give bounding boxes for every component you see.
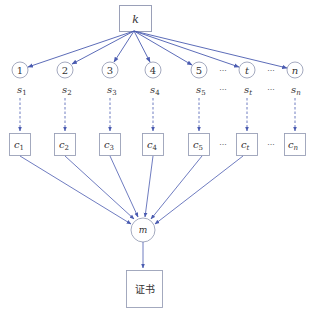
secret-label-2: s2 — [62, 84, 72, 97]
cipher-node-4: c4 — [143, 134, 164, 156]
edge-k-2 — [72, 31, 134, 64]
combiner-node-m: m — [131, 218, 155, 242]
combine-edges — [20, 156, 243, 224]
index-node-3: 3 — [102, 62, 118, 78]
index-node-4: 4 — [145, 62, 161, 78]
cipher-node-2: c2 — [55, 134, 76, 156]
ellipsis: ··· — [267, 140, 275, 149]
certificate-node: 证书 — [127, 271, 163, 308]
edge-c4-m — [145, 156, 153, 217]
index-label: 5 — [196, 65, 202, 76]
cipher-node-3: c3 — [100, 134, 121, 156]
ellipsis: ··· — [219, 66, 227, 75]
secret-label-3: s3 — [107, 84, 117, 97]
encrypt-edges — [20, 98, 295, 131]
cipher-node-5: c5 — [189, 134, 210, 156]
combiner-label: m — [139, 225, 148, 235]
index-label: 3 — [107, 65, 113, 76]
secret-label-5: s5 — [196, 84, 206, 97]
diagram-canvas: k 1 2 3 4 5 — [0, 0, 309, 314]
edge-c5-m — [151, 156, 202, 219]
index-node-t: t — [239, 62, 255, 78]
index-label: 2 — [62, 65, 68, 76]
cipher-node-t: ct — [237, 134, 258, 156]
edge-k-n — [134, 31, 287, 68]
certificate-label: 证书 — [135, 284, 155, 295]
index-node-2: 2 — [57, 62, 73, 78]
edge-k-3 — [114, 31, 134, 62]
edge-c3-m — [110, 156, 138, 217]
secret-label-4: s4 — [150, 84, 160, 97]
index-node-5: 5 — [191, 62, 207, 78]
ellipsis: ··· — [267, 66, 275, 75]
secret-labels: s1 s2 s3 s4 s5 st sn ··· ··· — [17, 84, 301, 97]
ellipsis: ··· — [219, 140, 227, 149]
index-nodes: 1 2 3 4 5 t n ··· ··· — [12, 62, 303, 78]
ellipsis: ··· — [219, 85, 227, 94]
index-node-1: 1 — [12, 62, 28, 78]
source-node-k: k — [120, 6, 152, 32]
index-label: 4 — [150, 65, 156, 76]
ellipsis: ··· — [267, 85, 275, 94]
secret-label-t: st — [244, 84, 252, 97]
edge-k-1 — [28, 31, 134, 67]
cipher-nodes: c1 c2 c3 c4 c5 ct cn ··· ··· — [10, 134, 306, 156]
source-label: k — [132, 13, 139, 26]
secret-label-n: sn — [291, 84, 301, 97]
edge-c2-m — [65, 156, 134, 219]
secret-label-1: s1 — [17, 84, 27, 97]
cipher-node-n: cn — [285, 134, 306, 156]
index-label: 1 — [17, 65, 23, 76]
edge-ct-m — [155, 156, 243, 224]
index-label: n — [292, 65, 298, 76]
index-node-n: n — [287, 62, 303, 78]
cipher-node-1: c1 — [10, 134, 31, 156]
